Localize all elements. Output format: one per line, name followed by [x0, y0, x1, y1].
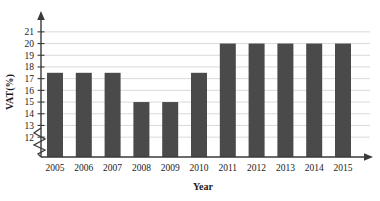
x-tick-label: 2006	[74, 163, 93, 173]
bar	[306, 44, 322, 157]
x-tick-label: 2008	[132, 163, 151, 173]
bar	[162, 102, 178, 157]
y-tick-label: 21	[25, 27, 35, 37]
x-tick-label: 2015	[334, 163, 353, 173]
vat-bar-chart: 12131415161718192021 2005200620072008200…	[0, 0, 380, 201]
bar	[105, 73, 121, 157]
bar	[133, 102, 149, 157]
y-axis-arrowhead	[37, 11, 45, 20]
y-tick-labels: 12131415161718192021	[25, 27, 35, 142]
x-tick-label: 2010	[190, 163, 209, 173]
y-tick-label: 19	[25, 51, 35, 61]
y-tick-label: 18	[25, 62, 35, 72]
x-tick-label: 2009	[161, 163, 180, 173]
y-tick-label: 14	[25, 109, 35, 119]
bar	[335, 44, 351, 157]
x-axis-arrowhead	[364, 153, 373, 161]
y-tick-label: 17	[25, 74, 35, 84]
x-tick-labels: 2005200620072008200920102011201220132014…	[46, 163, 353, 173]
y-tick-label: 16	[25, 86, 35, 96]
bar	[277, 44, 293, 157]
x-tick-label: 2007	[103, 163, 122, 173]
y-tick-label: 15	[25, 97, 35, 107]
bar	[47, 73, 63, 157]
bar	[191, 73, 207, 157]
y-axis-title: VAT(%)	[4, 74, 16, 110]
x-tick-label: 2012	[247, 163, 266, 173]
x-tick-label: 2014	[305, 163, 324, 173]
y-tick-label: 20	[25, 39, 35, 49]
x-tick-label: 2013	[276, 163, 295, 173]
x-tick-label: 2005	[46, 163, 65, 173]
x-tick-label: 2011	[218, 163, 237, 173]
bar	[220, 44, 236, 157]
y-axis-break-zigzag	[34, 128, 45, 157]
x-axis-title: Year	[193, 181, 214, 192]
bar	[76, 73, 92, 157]
bar	[249, 44, 265, 157]
y-tick-label: 12	[25, 133, 35, 143]
bars-group	[47, 44, 351, 157]
y-tick-label: 13	[25, 121, 35, 131]
chart-canvas: 12131415161718192021 2005200620072008200…	[0, 0, 380, 201]
